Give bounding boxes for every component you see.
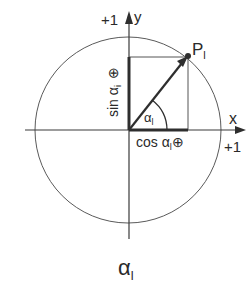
cos-label: cos αl⊕ [136, 134, 184, 152]
sin-label: sin αi⊕ [105, 67, 123, 117]
y-unit-label: +1 [101, 11, 118, 28]
angle-arc [152, 100, 167, 130]
y-axis-label: y [134, 8, 142, 25]
y-axis-arrow-icon [125, 11, 133, 24]
caption-label: αl [118, 255, 134, 283]
point-label: Pl [192, 40, 206, 61]
radius-vector [129, 63, 182, 130]
x-unit-label: +1 [224, 138, 241, 155]
angle-label: αl [144, 110, 154, 127]
unit-circle-diagram: +1 y x +1 Pl αl sin αi⊕ cos αl⊕ αl [0, 0, 246, 291]
x-axis-arrow-icon [235, 126, 246, 134]
point-p-marker [185, 53, 191, 59]
x-axis-label: x [229, 110, 237, 127]
diagram-svg: +1 y x +1 Pl αl sin αi⊕ cos αl⊕ αl [0, 0, 246, 291]
